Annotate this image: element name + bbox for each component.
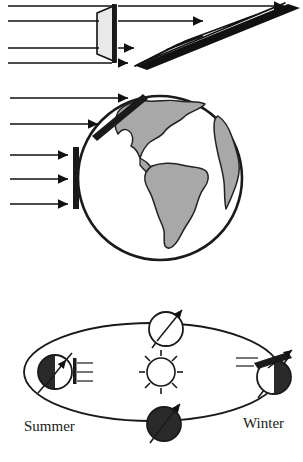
winter-label: Winter: [243, 415, 284, 431]
equatorial-bar: [73, 147, 79, 209]
perpendicular-surface: [97, 4, 117, 63]
earth-top-position: [149, 310, 183, 348]
summer-label: Summer: [24, 418, 75, 434]
seasons-figure: Summer Winter: [0, 0, 303, 462]
sun-disk: [147, 358, 175, 386]
earth-left-terminator-bar: [73, 358, 77, 384]
perpendicular-bar: [112, 4, 117, 63]
